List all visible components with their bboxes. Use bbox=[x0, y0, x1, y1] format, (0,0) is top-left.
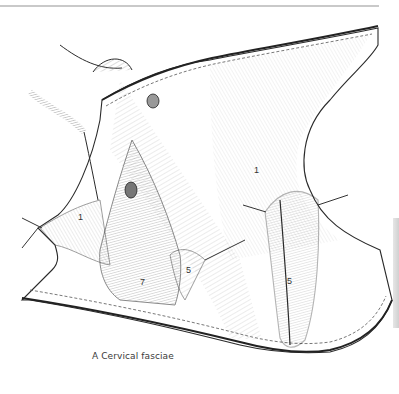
cervical-fasciae-illustration bbox=[0, 0, 399, 394]
vessel-strand-left bbox=[30, 92, 84, 132]
retractor-hook-left bbox=[22, 218, 42, 228]
retractor-hook-right-2 bbox=[318, 195, 348, 205]
label-7: 7 bbox=[140, 278, 145, 287]
figure-caption: A Cervical fasciae bbox=[92, 351, 174, 361]
label-1-right: 1 bbox=[254, 166, 259, 175]
page-edge-shadow bbox=[393, 218, 399, 328]
label-5-center: 5 bbox=[186, 266, 191, 275]
label-1-left: 1 bbox=[78, 213, 83, 222]
label-5-right: 5 bbox=[287, 277, 292, 286]
lymph-node bbox=[125, 182, 137, 198]
